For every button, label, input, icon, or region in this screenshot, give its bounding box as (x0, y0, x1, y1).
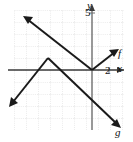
x-axis-label: x (117, 63, 122, 74)
coordinate-plot (0, 0, 133, 142)
curve-f-label: f (118, 48, 121, 59)
x-tick-label-2: 2 (105, 65, 111, 76)
y-tick-label-5: 5 (85, 7, 91, 18)
curve-g-label: g (115, 127, 121, 138)
graph-figure: y 5 2 x f g (0, 0, 133, 142)
